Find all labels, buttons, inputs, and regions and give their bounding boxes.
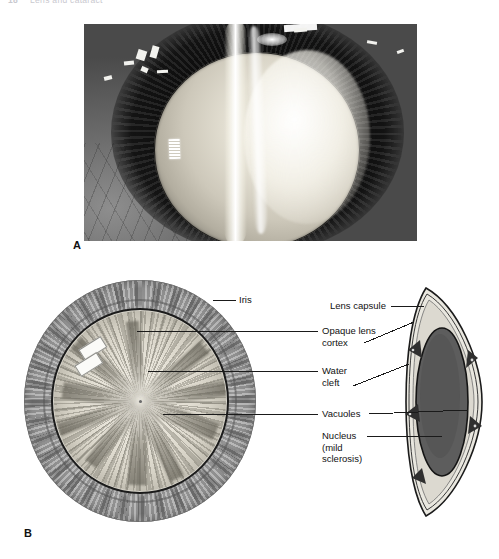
label-nucleus: Nucleus (mild sclerosis) <box>322 430 362 465</box>
leader-vacuoles-xsec <box>369 410 468 414</box>
leader-water-cleft-xsec <box>353 364 409 386</box>
label-vacuoles: Vacuoles <box>322 408 360 420</box>
figure-page: 18Lens and cataract A <box>0 0 499 559</box>
label-leader-lines <box>0 0 499 559</box>
label-lens-capsule: Lens capsule <box>330 300 386 312</box>
label-opaque-lens-cortex: Opaque lens cortex <box>322 325 376 348</box>
label-iris: Iris <box>239 294 252 306</box>
label-water-cleft: Water cleft <box>322 365 347 388</box>
